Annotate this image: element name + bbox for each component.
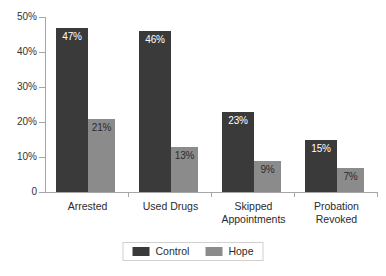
x-category-label-line1: Used Drugs: [129, 200, 212, 213]
bar-value-label: 7%: [337, 171, 364, 182]
x-category-label-line1: Skipped: [212, 200, 295, 213]
x-tick-mark-2: [211, 192, 212, 197]
legend-item-control[interactable]: Control: [133, 246, 190, 257]
x-category-label-probation-revoked: Probation Revoked: [295, 200, 378, 226]
x-category-label-line1: Arrested: [46, 200, 129, 213]
bar-value-label: 23%: [222, 115, 254, 126]
bar-value-label: 13%: [171, 150, 198, 161]
y-tick-label-0: 0: [1, 187, 37, 197]
x-tick-mark-1: [128, 192, 129, 197]
bar-control-used-drugs[interactable]: 46%: [139, 31, 171, 192]
x-tick-mark-4: [377, 192, 378, 197]
bar-value-label: 47%: [56, 31, 88, 42]
bar-value-label: 15%: [305, 143, 337, 154]
bar-hope-skipped-appointments[interactable]: 9%: [254, 161, 281, 193]
legend-label-control: Control: [156, 246, 190, 257]
x-category-label-used-drugs: Used Drugs: [129, 200, 212, 213]
plot-area: 47% 21% 46% 13% 23% 9% 15% 7%: [46, 17, 378, 192]
bar-control-probation-revoked[interactable]: 15%: [305, 140, 337, 193]
bar-control-arrested[interactable]: 47%: [56, 28, 88, 193]
y-tick-label-50: 50%: [1, 12, 37, 22]
x-category-label-line2: Appointments: [212, 213, 295, 226]
x-category-label-skipped-appointments: Skipped Appointments: [212, 200, 295, 226]
bar-value-label: 46%: [139, 34, 171, 45]
bar-hope-probation-revoked[interactable]: 7%: [337, 168, 364, 193]
bar-control-skipped-appointments[interactable]: 23%: [222, 112, 254, 193]
x-category-label-line2: Revoked: [295, 213, 378, 226]
legend-swatch-control-icon: [133, 247, 150, 256]
y-tick-label-20: 20%: [1, 117, 37, 127]
y-tick-label-10: 10%: [1, 152, 37, 162]
bar-chart: 50% 40% 30% 20% 10% 0 47% 21% 46% 13%: [0, 0, 386, 276]
legend-item-hope[interactable]: Hope: [205, 246, 253, 257]
x-tick-mark-3: [294, 192, 295, 197]
x-category-label-arrested: Arrested: [46, 200, 129, 213]
legend-swatch-hope-icon: [205, 247, 222, 256]
bar-value-label: 9%: [254, 164, 281, 175]
legend-label-hope: Hope: [228, 246, 253, 257]
bar-hope-arrested[interactable]: 21%: [88, 119, 115, 193]
bar-hope-used-drugs[interactable]: 13%: [171, 147, 198, 193]
bar-value-label: 21%: [88, 122, 115, 133]
y-tick-label-30: 30%: [1, 82, 37, 92]
chart-legend: Control Hope: [123, 242, 264, 261]
y-tick-label-40: 40%: [1, 47, 37, 57]
x-category-label-line1: Probation: [295, 200, 378, 213]
